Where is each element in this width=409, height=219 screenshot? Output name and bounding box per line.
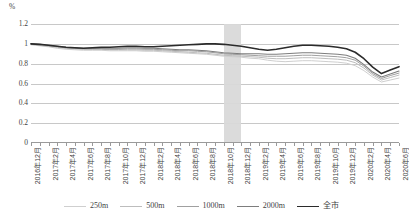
x-axis-tick-label: 2017年12月 <box>139 147 146 184</box>
x-axis-tick <box>84 143 85 146</box>
x-axis-tick <box>329 143 330 146</box>
x-axis-tick <box>276 143 277 146</box>
x-axis-tick <box>101 143 102 146</box>
x-axis-tick <box>154 143 155 146</box>
x-axis-tick <box>197 143 198 146</box>
plot-area <box>31 24 399 143</box>
x-axis-tick <box>136 143 137 146</box>
x-axis-tick-label: 2020年4月 <box>384 147 391 180</box>
x-axis-tick <box>49 143 50 146</box>
x-axis-tick <box>399 143 400 146</box>
legend-item-1000m[interactable]: 1000m <box>177 202 225 210</box>
y-axis-unit-label: % <box>9 3 15 11</box>
x-axis-tick-label: 2018年4月 <box>174 147 181 180</box>
legend-line-swatch <box>64 206 86 207</box>
x-axis-tick-label: 2018年2月 <box>157 147 164 180</box>
series-line-全市 <box>31 44 399 74</box>
legend-label: 250m <box>90 202 108 210</box>
x-axis-tick-label: 2017年10月 <box>122 147 129 184</box>
x-axis-tick <box>171 143 172 146</box>
x-axis-tick-label: 2019年12月 <box>349 147 356 184</box>
x-axis-tick <box>294 143 295 146</box>
x-axis-tick-label: 2019年8月 <box>314 147 321 180</box>
x-axis-tick-label: 2019年6月 <box>297 147 304 180</box>
x-axis-tick-label: 2019年10月 <box>332 147 339 184</box>
legend-line-swatch <box>177 206 199 207</box>
x-axis-tick <box>162 143 163 146</box>
x-axis-tick <box>285 143 286 146</box>
x-axis-tick <box>224 143 225 146</box>
x-axis-tick <box>303 143 304 146</box>
x-axis-tick-label: 2017年2月 <box>52 147 59 180</box>
x-axis-tick-label: 2017年6月 <box>87 147 94 180</box>
x-axis-tick <box>180 143 181 146</box>
y-axis-tick-label: 0 <box>0 139 28 147</box>
y-axis-tick-label: 0.4 <box>0 99 28 107</box>
legend-item-500m[interactable]: 500m <box>120 202 164 210</box>
x-axis-tick-label: 2019年4月 <box>279 147 286 180</box>
chart-legend: 250m500m1000m2000m全市 <box>0 196 403 216</box>
x-axis-tick <box>250 143 251 146</box>
x-axis-tick <box>338 143 339 146</box>
legend-label: 1000m <box>203 202 225 210</box>
x-axis-tick <box>346 143 347 146</box>
x-axis-tick-label: 2017年4月 <box>69 147 76 180</box>
x-axis-tick-label: 2018年12月 <box>244 147 251 184</box>
x-axis-tick <box>373 143 374 146</box>
y-axis-tick-label: 1 <box>0 40 28 48</box>
legend-line-swatch <box>120 206 142 207</box>
x-axis-tick <box>92 143 93 146</box>
x-axis-tick-label: 2020年2月 <box>367 147 374 180</box>
x-axis-tick-label: 2018年6月 <box>192 147 199 180</box>
x-axis-tick <box>381 143 382 146</box>
x-axis-tick <box>57 143 58 146</box>
x-axis-tick <box>311 143 312 146</box>
x-axis-tick-label: 2016年12月 <box>34 147 41 184</box>
x-axis-tick <box>215 143 216 146</box>
series-line-500m <box>31 44 399 80</box>
y-axis-tick-label: 1.2 <box>0 20 28 28</box>
x-axis-labels: 2016年12月2017年2月2017年4月2017年6月2017年8月2017… <box>31 147 399 193</box>
x-axis-tick-label: 2019年2月 <box>262 147 269 180</box>
x-axis-tick-label: 2020年6月 <box>402 147 409 180</box>
x-axis-tick <box>206 143 207 146</box>
legend-label: 全市 <box>323 202 339 210</box>
legend-line-swatch <box>237 206 259 207</box>
x-axis-tick <box>40 143 41 146</box>
x-axis-tick-label: 2017年8月 <box>104 147 111 180</box>
legend-label: 2000m <box>263 202 285 210</box>
legend-label: 500m <box>146 202 164 210</box>
legend-item-2000m[interactable]: 2000m <box>237 202 285 210</box>
series-line-250m <box>31 45 399 82</box>
legend-item-250m[interactable]: 250m <box>64 202 108 210</box>
x-axis-tick <box>320 143 321 146</box>
y-axis-tick-label: 0.2 <box>0 119 28 127</box>
series-layer <box>31 24 399 143</box>
x-axis-tick <box>233 143 234 146</box>
x-axis-tick <box>66 143 67 146</box>
x-axis-tick <box>189 143 190 146</box>
legend-line-swatch <box>297 206 319 207</box>
x-axis-tick <box>355 143 356 146</box>
x-axis-tick-label: 2018年8月 <box>209 147 216 180</box>
x-axis-tick <box>241 143 242 146</box>
x-axis-tick <box>390 143 391 146</box>
x-axis-tick <box>119 143 120 146</box>
y-axis-tick-label: 0.8 <box>0 60 28 68</box>
y-axis-tick-label: 0.6 <box>0 80 28 88</box>
x-axis-tick <box>268 143 269 146</box>
x-axis-tick <box>127 143 128 146</box>
x-axis-tick <box>145 143 146 146</box>
x-axis-tick <box>364 143 365 146</box>
x-axis-tick <box>259 143 260 146</box>
x-axis-tick-label: 2018年10月 <box>227 147 234 184</box>
x-axis-tick <box>75 143 76 146</box>
x-axis-tick <box>110 143 111 146</box>
legend-item-全市[interactable]: 全市 <box>297 202 339 210</box>
x-axis-tick <box>31 143 32 146</box>
